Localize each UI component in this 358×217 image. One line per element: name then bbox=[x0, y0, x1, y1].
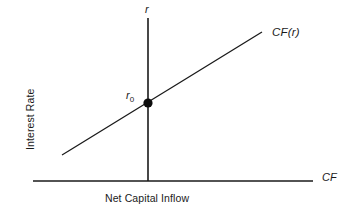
point-label-subscript: 0 bbox=[130, 95, 134, 104]
cf-curve-label: CF(r) bbox=[272, 27, 300, 39]
y-axis-variable-label: r bbox=[145, 4, 149, 15]
equilibrium-point-label: r0 bbox=[126, 90, 134, 104]
equilibrium-point-marker bbox=[143, 98, 152, 107]
cf-curve-line bbox=[62, 32, 262, 155]
x-axis-variable-label: CF bbox=[322, 172, 337, 183]
y-axis-title: Interest Rate bbox=[25, 89, 36, 150]
x-axis-title: Net Capital Inflow bbox=[105, 193, 189, 204]
diagram-canvas bbox=[0, 0, 358, 217]
economics-diagram: r CF(r) CF r0 Net Capital Inflow Interes… bbox=[0, 0, 358, 217]
